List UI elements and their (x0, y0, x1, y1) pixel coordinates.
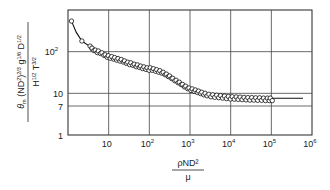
y-tick-labels: 1710102 (45, 46, 63, 140)
x-axis-label: ρND² μ (172, 158, 204, 182)
x-tick-labels: 10102103104105106 (102, 138, 318, 149)
x-tick-label: 104 (222, 138, 236, 149)
x-tick-label: 105 (263, 138, 277, 149)
chart-figure: 10102103104105106 1710102 ρND² μ θm (ND2… (0, 0, 330, 190)
y-label-denominator: H1/2 T3/2 (31, 57, 41, 87)
x-tick-label: 10 (102, 139, 112, 149)
data-markers (69, 19, 274, 103)
x-tick-label: 102 (141, 138, 155, 149)
y-tick-label: 10 (53, 89, 63, 99)
y-axis-label: θm (ND2)2/3 g1/6 D1/2 H1/2 T3/2 (16, 22, 41, 122)
y-tick-label: 1 (58, 131, 63, 141)
data-point-marker (270, 98, 274, 102)
gridlines (68, 10, 312, 135)
x-tick-label: 106 (303, 138, 317, 149)
x-label-denominator: μ (185, 172, 190, 182)
y-label-numerator: θm (ND2)2/3 g1/6 D1/2 (16, 35, 27, 109)
y-tick-label: 102 (45, 46, 59, 57)
data-point-marker (80, 39, 84, 43)
x-tick-label: 103 (181, 138, 195, 149)
x-label-numerator: ρND² (177, 158, 198, 168)
y-tick-label: 7 (58, 102, 63, 112)
data-point-marker (69, 19, 73, 23)
